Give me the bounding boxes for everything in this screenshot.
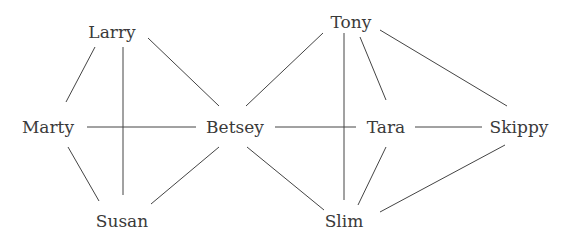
node-marty: Marty — [22, 117, 75, 137]
node-larry: Larry — [88, 22, 136, 42]
node-skippy: Skippy — [490, 117, 549, 137]
edge-betsey-slim — [247, 147, 324, 210]
network-diagram: LarryMartyBetseySusanTonyTaraSkippySlim — [0, 0, 568, 242]
edge-tara-slim — [358, 147, 386, 205]
node-betsey: Betsey — [206, 117, 264, 137]
node-slim: Slim — [325, 211, 364, 231]
edge-betsey-susan — [151, 147, 219, 204]
edge-larry-betsey — [148, 38, 219, 106]
edge-skippy-slim — [380, 145, 505, 212]
node-tara: Tara — [367, 117, 405, 137]
nodes-group: LarryMartyBetseySusanTonyTaraSkippySlim — [22, 12, 549, 231]
edges-group — [66, 30, 507, 212]
node-tony: Tony — [331, 12, 372, 32]
edge-tony-tara — [360, 37, 386, 100]
node-susan: Susan — [96, 211, 148, 231]
edge-tony-skippy — [380, 30, 507, 106]
edge-betsey-tony — [246, 33, 323, 106]
edge-marty-susan — [68, 147, 99, 201]
edge-larry-marty — [66, 47, 95, 102]
